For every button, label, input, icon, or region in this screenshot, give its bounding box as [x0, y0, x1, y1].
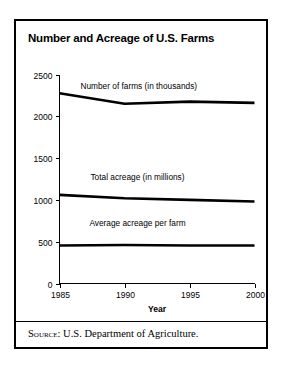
- y-tick-label: 0: [48, 280, 53, 290]
- series-label: Number of farms (in thousands): [80, 81, 197, 91]
- x-tick-label: 1995: [181, 290, 200, 300]
- x-tick-label: 1990: [116, 290, 135, 300]
- source-note: Source: U.S. Department of Agriculture.: [28, 328, 198, 339]
- y-tick-label: 1500: [34, 154, 53, 164]
- chart-plot: 05001000150020002500 1985199019952000 Nu…: [16, 21, 268, 349]
- section-divider: [16, 321, 268, 322]
- x-axis-title: Year: [148, 304, 167, 314]
- y-tick-label: 2000: [34, 112, 53, 122]
- series-label: Total acreage (in millions): [90, 172, 184, 182]
- chart-figure: Number and Acreage of U.S. Farms 0500100…: [14, 19, 268, 349]
- source-label: Source:: [28, 328, 60, 339]
- y-tick-label: 1000: [34, 196, 53, 206]
- y-tick-label: 2500: [34, 71, 53, 81]
- series-label: Average acreage per farm: [89, 218, 185, 228]
- series-line: [60, 93, 255, 103]
- y-tick-label: 500: [38, 238, 52, 248]
- y-axis-ticks: 05001000150020002500: [34, 71, 60, 290]
- x-axis-ticks: 1985199019952000: [51, 284, 265, 300]
- x-tick-label: 1985: [51, 290, 70, 300]
- source-text: U.S. Department of Agriculture.: [63, 328, 198, 339]
- x-tick-label: 2000: [246, 290, 265, 300]
- series-line: [60, 195, 255, 202]
